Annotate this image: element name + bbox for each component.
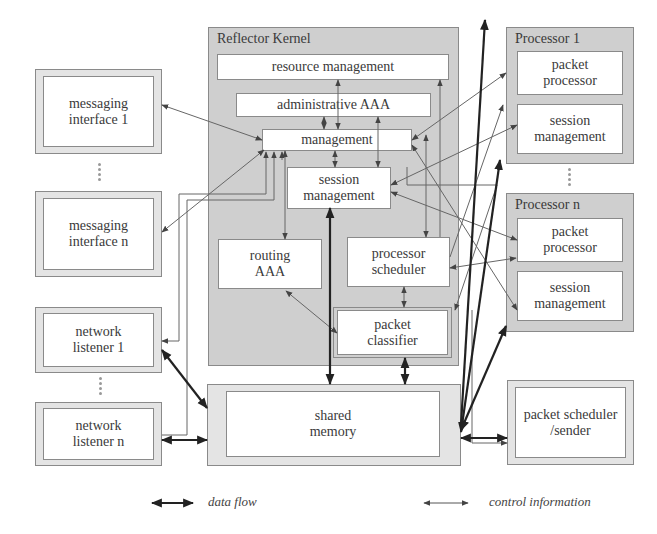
network-listener-1-box: network listener 1 <box>43 313 154 367</box>
legend-data-flow: data flow <box>208 494 257 510</box>
packet-scheduler-sender-box: packet scheduler /sender <box>515 387 626 458</box>
shared-memory-box: shared memory <box>226 391 440 457</box>
processor-1-title: Processor 1 <box>515 31 580 47</box>
session-management-box: session management <box>287 167 391 209</box>
processor-n-session-management-box: session management <box>517 271 623 321</box>
processor-n-packet-processor-box: packet processor <box>517 218 623 262</box>
processor-n-title: Processor n <box>515 197 580 213</box>
messaging-interface-1-box: messaging interface 1 <box>43 76 154 147</box>
reflector-kernel-title: Reflector Kernel <box>217 31 311 47</box>
messaging-interface-n-box: messaging interface n <box>43 198 154 270</box>
management-box: management <box>262 129 412 151</box>
processor-scheduler-box: processor scheduler <box>347 237 450 287</box>
resource-management-box: resource management <box>217 54 449 80</box>
processor-1-packet-processor-box: packet processor <box>517 51 623 95</box>
ellipsis-dots <box>99 377 103 397</box>
ellipsis-dots <box>568 168 572 188</box>
packet-classifier-box: packet classifier <box>337 310 448 355</box>
administrative-aaa-box: administrative AAA <box>236 93 431 117</box>
ellipsis-dots <box>98 163 102 183</box>
processor-1-session-management-box: session management <box>517 104 623 154</box>
routing-aaa-box: routing AAA <box>218 239 322 289</box>
network-listener-n-box: network listener n <box>43 408 154 460</box>
legend-control-information: control information <box>489 494 591 510</box>
